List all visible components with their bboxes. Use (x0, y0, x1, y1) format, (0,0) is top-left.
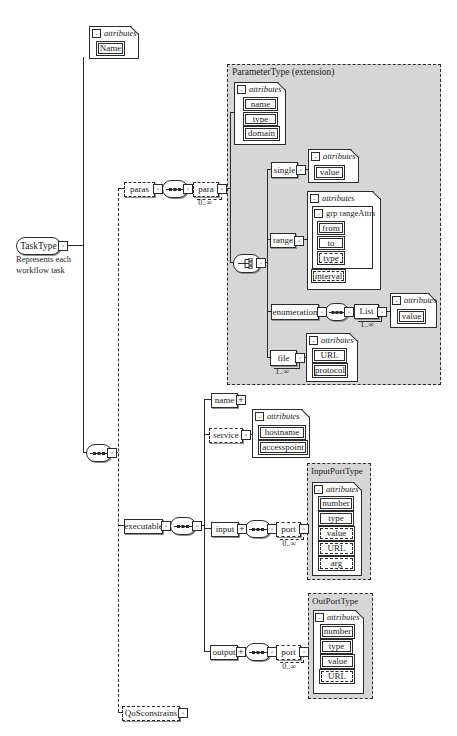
attribute-hostname[interactable]: hostname (258, 425, 306, 440)
occurrence-label: 1..∞ (356, 320, 378, 329)
collapse-toggle-icon[interactable]: - (299, 524, 309, 534)
collapse-toggle-icon[interactable]: - (58, 241, 68, 251)
expand-toggle-icon[interactable]: + (236, 647, 246, 657)
element-list[interactable]: List (354, 304, 379, 319)
collapse-icon[interactable]: - (314, 485, 323, 494)
schema-diagram: - attributes Name TaskType - Represents … (0, 0, 457, 736)
attributes-header: - attributes (392, 295, 437, 305)
collapse-icon[interactable]: - (314, 209, 323, 218)
collapse-toggle-icon[interactable]: - (299, 647, 309, 657)
collapse-toggle-icon[interactable]: - (256, 258, 266, 268)
connector (83, 57, 84, 452)
attributes-header: - attributes (314, 484, 359, 494)
attribute-arg[interactable]: arg (318, 556, 355, 571)
expand-toggle-icon[interactable]: + (237, 524, 247, 534)
collapse-icon[interactable]: - (311, 152, 320, 161)
attributes-label: attributes (322, 193, 355, 203)
collapse-icon[interactable]: - (255, 412, 264, 421)
attributes-header: - attributes (92, 28, 137, 38)
connector (267, 169, 268, 357)
element-output[interactable]: output (210, 645, 238, 660)
collapse-toggle-icon[interactable]: - (241, 430, 251, 440)
element-paras[interactable]: paras (124, 182, 155, 197)
attributes-label: attributes (404, 295, 437, 305)
group-header: - grp rangeAttrs (314, 208, 375, 218)
attributes-header: - attributes (310, 193, 355, 203)
root-annotation: Represents each workflow task (16, 254, 71, 276)
element-input[interactable]: input (211, 522, 239, 537)
element-executable[interactable]: executable (124, 519, 163, 534)
attribute-accesspoint[interactable]: accesspoint (258, 440, 308, 455)
attribute-protocol[interactable]: protocol (312, 363, 348, 378)
attributes-label: attributes (323, 151, 356, 161)
element-single[interactable]: single (271, 162, 298, 178)
collapse-toggle-icon[interactable]: - (153, 184, 163, 194)
collapse-toggle-icon[interactable]: - (161, 521, 171, 531)
attribute-type[interactable]: type (317, 251, 345, 265)
collapse-toggle-icon[interactable]: - (178, 708, 188, 718)
attribute-domain[interactable]: domain (243, 126, 280, 141)
attributes-label: attributes (104, 28, 137, 38)
attribute-number[interactable]: number (320, 624, 355, 639)
attributes-label: attributes (326, 484, 359, 494)
collapse-toggle-icon[interactable]: - (317, 307, 327, 317)
element-port-output[interactable]: port (276, 645, 301, 660)
connector (204, 399, 205, 651)
element-range[interactable]: range (270, 233, 296, 248)
attributes-header: - attributes (255, 411, 300, 421)
element-qosconstrains[interactable]: QoSconstrains (122, 706, 180, 721)
collapse-icon[interactable]: - (237, 85, 246, 94)
attributes-label: attributes (267, 411, 300, 421)
occurrence-label: 1..∞ (269, 367, 295, 376)
collapse-toggle-icon[interactable]: - (296, 165, 306, 175)
element-name[interactable]: name (211, 393, 238, 408)
element-service[interactable]: service (209, 428, 243, 443)
collapse-toggle-icon[interactable]: - (107, 448, 117, 458)
connector (66, 245, 83, 246)
attribute-type[interactable]: type (318, 511, 354, 526)
collapse-toggle-icon[interactable]: - (267, 647, 277, 657)
attributes-label: attributes (327, 612, 360, 622)
attribute-name[interactable]: Name (96, 41, 125, 56)
attribute-number[interactable]: number (318, 496, 354, 511)
attributes-label: attributes (249, 84, 282, 94)
attribute-type[interactable]: type (320, 639, 353, 654)
element-enumeration[interactable]: enumeration (271, 304, 319, 320)
inputporttype-title: InputPortType (311, 466, 363, 476)
collapse-toggle-icon[interactable]: - (192, 521, 202, 531)
attribute-value[interactable]: value (320, 654, 355, 669)
collapse-icon[interactable]: - (310, 194, 319, 203)
collapse-toggle-icon[interactable]: - (344, 307, 354, 317)
attribute-type[interactable]: type (243, 112, 278, 126)
collapse-toggle-icon[interactable]: - (295, 353, 305, 363)
parametertype-title: ParameterType (extension) (232, 67, 334, 77)
attribute-value[interactable]: value (318, 526, 355, 541)
occurrence-label: 0..∞ (277, 539, 301, 548)
expand-toggle-icon[interactable]: + (236, 395, 246, 405)
collapse-toggle-icon[interactable]: - (294, 236, 304, 246)
collapse-icon[interactable]: - (392, 296, 401, 305)
collapse-toggle-icon[interactable]: - (267, 524, 277, 534)
attribute-url[interactable]: URL (319, 669, 355, 684)
attribute-to[interactable]: to (317, 236, 345, 250)
attributes-header: - attributes (309, 335, 354, 345)
root-element-tasktype[interactable]: TaskType (16, 237, 61, 255)
attribute-value[interactable]: value (314, 165, 345, 180)
attributes-header: - attributes (315, 612, 360, 622)
attribute-interval[interactable]: interval (311, 269, 346, 283)
element-file[interactable]: file (270, 350, 297, 366)
element-para[interactable]: para (193, 182, 219, 197)
attribute-url[interactable]: URL (318, 541, 355, 556)
collapse-toggle-icon[interactable]: - (217, 184, 227, 194)
collapse-toggle-icon[interactable]: - (183, 184, 193, 194)
attribute-value[interactable]: value (397, 309, 426, 324)
attribute-from[interactable]: from (317, 221, 345, 235)
element-port-input[interactable]: port (276, 522, 301, 537)
collapse-toggle-icon[interactable]: - (377, 307, 387, 317)
attribute-url[interactable]: URL (312, 348, 347, 363)
group-label: grp rangeAttrs (326, 208, 375, 218)
collapse-icon[interactable]: - (92, 29, 101, 38)
collapse-icon[interactable]: - (315, 613, 324, 622)
collapse-icon[interactable]: - (309, 336, 318, 345)
attribute-name[interactable]: name (243, 97, 278, 111)
